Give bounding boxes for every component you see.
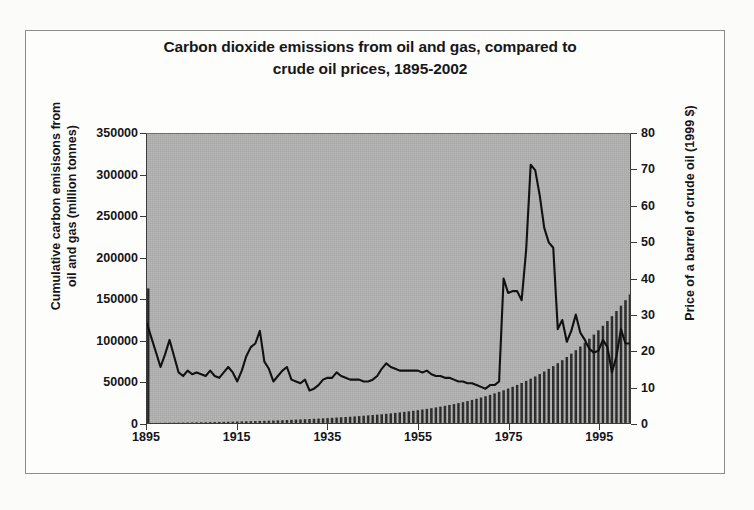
y-tick-mark-right: [631, 206, 637, 207]
y-tick-label-right: 50: [641, 235, 655, 249]
y-tick-label-right: 80: [641, 126, 655, 140]
x-tick-label: 1955: [404, 430, 432, 444]
y-tick-mark-right: [631, 315, 637, 316]
oil-price-line-series: [147, 134, 630, 423]
y-axis-ticks-left: [134, 133, 146, 424]
y-tick-mark-right: [631, 388, 637, 389]
y-axis-labels-right: 01020304050607080: [641, 133, 675, 424]
x-tick-label: 1895: [132, 430, 160, 444]
x-tick-label: 1975: [495, 430, 523, 444]
y-tick-label-right: 70: [641, 162, 655, 176]
x-tick-label: 1995: [585, 430, 613, 444]
y-axis-title-right: Price of a barrel of crude oil (1999 $): [682, 63, 698, 363]
chart-title-line-1: Carbon dioxide emissions from oil and ga…: [60, 36, 680, 58]
y-tick-mark-right: [631, 279, 637, 280]
y-tick-label-right: 40: [641, 272, 655, 286]
x-tick-label: 1935: [313, 430, 341, 444]
oil-price-line: [147, 165, 630, 391]
y-tick-mark-right: [631, 242, 637, 243]
chart-title-line-2: crude oil prices, 1895-2002: [60, 58, 680, 80]
y-axis-labels-left: 0500001000001500002000002500003000003500…: [56, 133, 138, 424]
y-tick-label-left: 250000: [96, 209, 138, 223]
y-tick-label-left: 50000: [103, 375, 138, 389]
y-tick-label-right: 10: [641, 381, 655, 395]
y-tick-label-right: 30: [641, 308, 655, 322]
scan-background: Carbon dioxide emissions from oil and ga…: [0, 0, 754, 510]
y-axis-ticks-right: [631, 133, 643, 424]
y-tick-label-right: 20: [641, 344, 655, 358]
y-tick-mark-right: [631, 133, 637, 134]
y-tick-label-left: 100000: [96, 334, 138, 348]
x-axis-labels: 189519151935195519751995: [146, 430, 631, 452]
plot-area: [146, 133, 631, 424]
x-tick-label: 1915: [223, 430, 251, 444]
chart-title: Carbon dioxide emissions from oil and ga…: [60, 36, 680, 80]
y-tick-mark-right: [631, 424, 637, 425]
y-tick-label-right: 60: [641, 199, 655, 213]
y-tick-label-left: 150000: [96, 292, 138, 306]
y-tick-mark-right: [631, 351, 637, 352]
y-tick-mark-right: [631, 169, 637, 170]
y-tick-label-left: 200000: [96, 251, 138, 265]
y-tick-label-left: 350000: [96, 126, 138, 140]
y-tick-label-left: 300000: [96, 168, 138, 182]
